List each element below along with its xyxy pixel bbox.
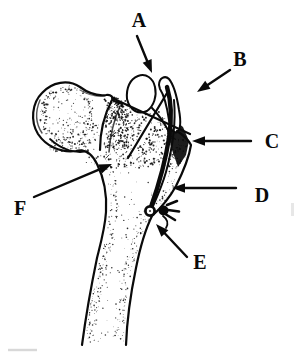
lateral-wire-band	[151, 87, 175, 207]
label-e: E	[193, 251, 206, 273]
head-inner-arc	[37, 100, 42, 133]
knot-twist-1	[167, 201, 177, 205]
arrow-c	[192, 136, 251, 146]
figure-canvas: Line drawing of a proximal femur showing…	[0, 0, 294, 359]
label-a: A	[132, 9, 147, 31]
arrow-a-head	[143, 59, 152, 73]
scan-mark-right-edge	[291, 203, 294, 216]
femur-lateral-outline	[126, 131, 191, 345]
knot-tail	[163, 216, 167, 228]
arrow-a-shaft	[137, 36, 148, 63]
knot-twist-3	[166, 215, 175, 221]
screw-center-dot	[149, 210, 151, 212]
femur-diagram: Line drawing of a proximal femur showing…	[0, 0, 294, 359]
arrow-b	[197, 70, 230, 92]
arrow-a	[137, 36, 152, 73]
arrow-b-head	[197, 81, 211, 92]
arrow-b-shaft	[206, 70, 230, 86]
scan-artifacts	[8, 203, 294, 350]
arrow-e	[156, 224, 187, 257]
arrow-e-shaft	[164, 232, 187, 257]
arrow-f-shaft	[34, 168, 102, 197]
label-f: F	[14, 197, 26, 219]
screw-button	[145, 206, 154, 215]
arrow-d	[172, 183, 236, 193]
pointer-arrows	[34, 36, 251, 257]
label-b: B	[233, 48, 246, 70]
arrow-f	[34, 164, 112, 197]
arrow-c-head	[192, 136, 205, 146]
label-c: C	[265, 130, 279, 152]
knot-twist-2	[168, 210, 179, 212]
label-d: D	[255, 184, 269, 206]
